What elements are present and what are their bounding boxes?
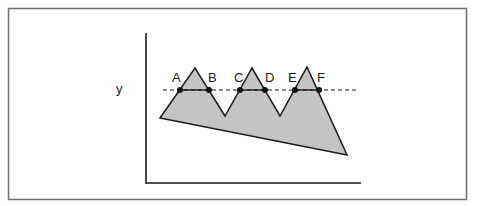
point-d-label: D	[265, 70, 274, 85]
level-line-label: y	[116, 81, 123, 96]
point-f-label: F	[317, 70, 325, 85]
point-f-dot	[316, 87, 322, 93]
point-e-dot	[292, 87, 298, 93]
point-a-dot	[177, 87, 183, 93]
point-c-dot	[237, 87, 243, 93]
point-b-dot	[206, 87, 212, 93]
point-d-dot	[262, 87, 268, 93]
point-b-label: B	[208, 70, 217, 85]
point-c-label: C	[234, 70, 243, 85]
diagram-canvas: y A B C D E F	[0, 0, 479, 206]
point-e-label: E	[288, 70, 297, 85]
point-a-label: A	[172, 70, 181, 85]
